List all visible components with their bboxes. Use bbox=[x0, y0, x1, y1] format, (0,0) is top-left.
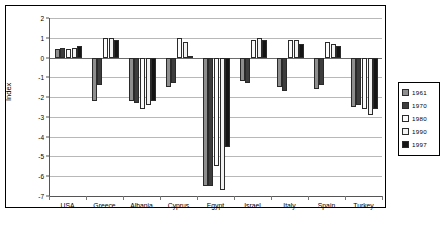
x-axis-tick-mark bbox=[271, 196, 272, 200]
bar bbox=[129, 58, 134, 102]
x-axis-tick-mark bbox=[197, 196, 198, 200]
bar bbox=[225, 58, 230, 147]
y-axis-tick-label: -3 bbox=[38, 113, 44, 120]
legend-label: 1997 bbox=[412, 141, 427, 148]
x-axis-category-label: Greece bbox=[93, 202, 115, 209]
y-axis-tick-label: 1 bbox=[40, 34, 44, 41]
x-axis-category-label: USA bbox=[61, 202, 75, 209]
bar bbox=[203, 58, 208, 187]
x-axis-tick-mark bbox=[308, 196, 309, 200]
bar bbox=[325, 42, 330, 58]
legend-item[interactable]: 1980 bbox=[402, 112, 439, 125]
bar bbox=[251, 40, 256, 58]
y-axis-labels: 210-1-2-3-4-5-6-7 bbox=[6, 18, 49, 196]
x-axis-tick-mark bbox=[382, 196, 383, 200]
bar bbox=[277, 58, 282, 88]
bar bbox=[109, 38, 114, 58]
bar bbox=[257, 38, 262, 58]
bar bbox=[134, 58, 139, 103]
legend-item[interactable]: 1970 bbox=[402, 99, 439, 112]
bar bbox=[72, 48, 77, 58]
y-axis-tick-label: -2 bbox=[38, 94, 44, 101]
bar bbox=[60, 48, 65, 58]
bar bbox=[177, 38, 182, 58]
x-axis-category-label: Italy bbox=[283, 202, 295, 209]
legend-item[interactable]: 1997 bbox=[402, 138, 439, 151]
bar bbox=[288, 40, 293, 58]
bar bbox=[146, 58, 151, 105]
x-axis-tick-mark bbox=[234, 196, 235, 200]
chart-frame: Index 210-1-2-3-4-5-6-7 USAGreeceAlbania… bbox=[5, 5, 386, 208]
x-axis-category-label: Albania bbox=[130, 202, 153, 209]
bar bbox=[151, 58, 156, 102]
bar bbox=[336, 46, 341, 58]
y-axis-tick-label: -6 bbox=[38, 173, 44, 180]
bar bbox=[319, 58, 324, 86]
x-axis-category-label: Israel bbox=[244, 202, 261, 209]
x-axis-labels: USAGreeceAlbaniaCyprusEgyptIsraelItalySp… bbox=[49, 202, 382, 216]
bar bbox=[103, 38, 108, 58]
legend-item[interactable]: 1990 bbox=[402, 125, 439, 138]
bar bbox=[166, 58, 171, 88]
x-axis-tick-mark bbox=[160, 196, 161, 200]
x-axis-tick-mark bbox=[86, 196, 87, 200]
legend-label: 1961 bbox=[412, 89, 427, 96]
bar bbox=[208, 58, 213, 187]
bar bbox=[140, 58, 145, 109]
bar bbox=[220, 58, 225, 191]
bar bbox=[55, 49, 60, 58]
bar bbox=[314, 58, 319, 90]
bar bbox=[373, 58, 378, 109]
bar bbox=[282, 58, 287, 92]
legend-swatch bbox=[402, 102, 409, 109]
x-axis-category-label: Turkey bbox=[353, 202, 374, 209]
chart-screenshot: Index 210-1-2-3-4-5-6-7 USAGreeceAlbania… bbox=[0, 0, 445, 230]
bar bbox=[262, 40, 267, 58]
legend: 19611970198019901997 bbox=[398, 82, 440, 156]
x-axis-tick-mark bbox=[49, 196, 50, 200]
legend-swatch bbox=[402, 89, 409, 96]
x-axis-tick-mark bbox=[345, 196, 346, 200]
legend-swatch bbox=[402, 141, 409, 148]
bar bbox=[171, 58, 176, 84]
bar bbox=[183, 42, 188, 58]
y-axis-tick-label: -7 bbox=[38, 193, 44, 200]
y-axis-tick-label: 0 bbox=[40, 54, 44, 61]
bar bbox=[331, 44, 336, 58]
bar bbox=[368, 58, 373, 115]
bar bbox=[114, 40, 119, 58]
y-axis-tick-label: -4 bbox=[38, 133, 44, 140]
bar bbox=[240, 58, 245, 82]
legend-swatch bbox=[402, 115, 409, 122]
legend-swatch bbox=[402, 128, 409, 135]
x-axis-category-label: Egypt bbox=[207, 202, 224, 209]
legend-label: 1980 bbox=[412, 115, 427, 122]
x-axis-category-label: Cyprus bbox=[168, 202, 190, 209]
bars-layer bbox=[50, 18, 382, 196]
legend-item[interactable]: 1961 bbox=[402, 86, 439, 99]
bar bbox=[356, 58, 361, 105]
bar bbox=[66, 49, 71, 58]
bar bbox=[299, 44, 304, 58]
bar bbox=[92, 58, 97, 102]
y-axis-tick-label: -1 bbox=[38, 74, 44, 81]
legend-label: 1990 bbox=[412, 128, 427, 135]
bar bbox=[188, 56, 193, 58]
y-axis-tick-label: 2 bbox=[40, 15, 44, 22]
bar bbox=[77, 46, 82, 58]
bar bbox=[245, 58, 250, 84]
legend-label: 1970 bbox=[412, 102, 427, 109]
bar bbox=[351, 58, 356, 107]
bar bbox=[97, 58, 102, 86]
x-axis-category-label: Spain bbox=[318, 202, 335, 209]
bar bbox=[362, 58, 367, 109]
bar bbox=[214, 58, 219, 167]
plot-area bbox=[49, 18, 382, 196]
y-axis-tick-label: -5 bbox=[38, 153, 44, 160]
x-axis-tick-mark bbox=[123, 196, 124, 200]
bar bbox=[294, 40, 299, 58]
